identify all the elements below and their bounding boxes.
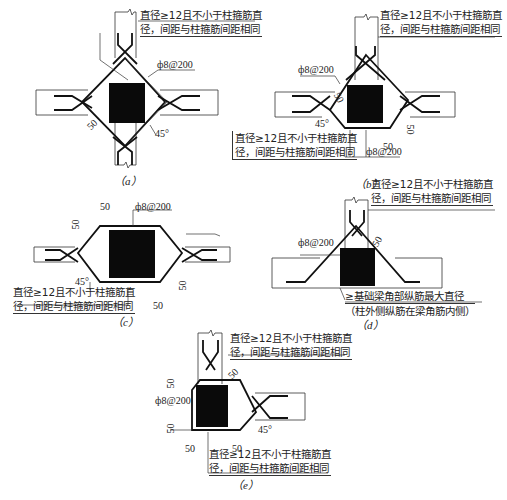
dim-50-e-bot-v: 50 (165, 424, 176, 434)
note-c-bottom: 直径≥12且不小于柱箍筋直 径，间距与柱箍筋间距相同 (13, 285, 135, 314)
stirrup-label-b-bottom: ф8@200 (366, 146, 402, 157)
note-b-top-line2: 径，间距与柱箍筋间距相同 (380, 22, 502, 36)
dim-50-e-top-v: 50 (165, 379, 176, 389)
dim-50-c-bot-h: 50 (153, 300, 163, 311)
caption-d: （d） (356, 316, 384, 332)
note-e-top-line2: 径，间距与柱箍筋间距相同 (230, 345, 352, 359)
note-b-bottom: 直径≥12且不小于柱箍筋直 径，间距与柱箍筋间距相同 (232, 131, 357, 160)
angle-a: 45° (155, 128, 169, 139)
rebar-detail-drawings: .thin{stroke:#333;stroke-width:0.8;fill:… (0, 0, 507, 500)
diagram-d (272, 197, 495, 302)
dim-50-c-top-h: 50 (100, 201, 110, 212)
caption-c: （c） (112, 313, 139, 329)
note-e-bottom: 直径≥12且不小于柱箍筋直 径，间距与柱箍筋间距相同 (209, 447, 331, 476)
caption-e: （e） (232, 476, 259, 492)
dim-50-c-top-v: 50 (70, 220, 81, 230)
note-a-top-line2: 径，间距与柱箍筋间距相同 (140, 22, 262, 36)
note-e-top: 直径≥12且不小于柱箍筋直 径，间距与柱箍筋间距相同 (230, 331, 352, 360)
note-e-bottom-line2: 径，间距与柱箍筋间距相同 (209, 461, 331, 475)
note-c-bottom-line1: 直径≥12且不小于柱箍筋直 (13, 285, 135, 299)
dim-50-e-bot-h1: 50 (185, 443, 195, 454)
dim-50-b-b: 50 (405, 125, 416, 135)
note-d-bottom: ≥基础梁角部纵筋最大直径 （柱外侧纵筋在梁角筋内侧） (345, 289, 475, 318)
note-a-top-line1: 直径≥12且不小于柱箍筋直 (140, 8, 262, 22)
note-d-bottom-line1: ≥基础梁角部纵筋最大直径 (345, 289, 475, 304)
note-a-top: 直径≥12且不小于柱箍筋直 径，间距与柱箍筋间距相同 (140, 8, 262, 37)
note-e-bottom-line1: 直径≥12且不小于柱箍筋直 (209, 447, 331, 461)
angle-b: 45° (315, 118, 329, 129)
stirrup-label-b-left: ф8@200 (298, 64, 334, 75)
note-b-bottom-line1: 直径≥12且不小于柱箍筋直 (235, 131, 357, 145)
angle-e: 45° (258, 424, 272, 435)
note-d-top-line2: 径，间距与柱箍筋间距相同 (371, 191, 493, 205)
note-d-top-line1: 直径≥12且不小于柱箍筋直 (371, 177, 493, 191)
note-c-bottom-line2: 径，间距与柱箍筋间距相同 (13, 299, 135, 313)
stirrup-label-e: ф8@200 (155, 395, 191, 406)
dim-50-c-bot-v: 50 (177, 281, 188, 291)
stirrup-label-c: ф8@200 (135, 201, 171, 212)
note-d-top: 直径≥12且不小于柱箍筋直 径，间距与柱箍筋间距相同 (371, 177, 493, 206)
caption-a: （a） (114, 172, 142, 188)
note-b-bottom-line2: 径，间距与柱箍筋间距相同 (235, 145, 357, 159)
stirrup-label-d: ф8@200 (298, 237, 334, 248)
note-b-top-line1: 直径≥12且不小于柱箍筋直 (380, 8, 502, 22)
note-e-top-line1: 直径≥12且不小于柱箍筋直 (230, 331, 352, 345)
stirrup-label-a: ф8@200 (157, 59, 193, 70)
note-b-top: 直径≥12且不小于柱箍筋直 径，间距与柱箍筋间距相同 (380, 8, 502, 37)
